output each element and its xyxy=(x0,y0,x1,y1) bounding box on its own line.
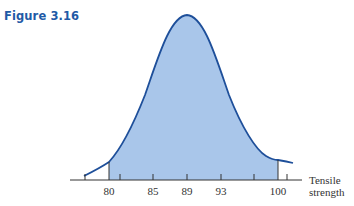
x-axis-label: Tensile strength xyxy=(309,174,344,198)
tick-label-100: 100 xyxy=(270,185,287,197)
x-axis-label-line1: Tensile xyxy=(309,174,344,186)
shaded-area xyxy=(109,15,278,180)
tick-label-80: 80 xyxy=(104,185,116,197)
tick-label-89: 89 xyxy=(182,185,194,197)
x-axis-label-line2: strength xyxy=(309,186,344,198)
normal-curve-chart: 80 85 89 93 100 xyxy=(0,0,354,206)
tick-label-85: 85 xyxy=(148,185,160,197)
tick-label-93: 93 xyxy=(216,185,228,197)
